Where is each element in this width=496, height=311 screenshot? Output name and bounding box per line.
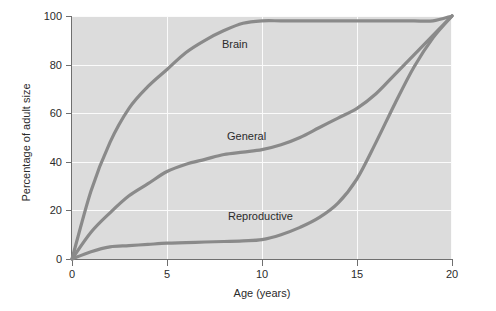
- x-tick-0: [72, 260, 73, 266]
- y-ticklabel-60: 60: [50, 108, 62, 119]
- x-ticklabel-20: 20: [437, 269, 467, 280]
- x-axis-title: Age (years): [72, 288, 452, 299]
- x-ticklabel-10: 10: [247, 269, 277, 280]
- x-ticklabel-5: 5: [152, 269, 182, 280]
- x-tick-10: [262, 260, 263, 266]
- curve-label-brain: Brain: [222, 38, 248, 50]
- x-ticklabel-15: 15: [342, 269, 372, 280]
- curve-label-general: General: [227, 130, 266, 142]
- x-tick-5: [167, 260, 168, 266]
- y-tick-80: [66, 65, 72, 66]
- gridline-x-15: [357, 16, 358, 259]
- y-tick-40: [66, 162, 72, 163]
- curve-label-reproductive: Reproductive: [228, 210, 293, 222]
- y-axis-line: [71, 16, 72, 260]
- x-tick-20: [452, 260, 453, 266]
- y-axis-title: Percentage of adult size: [21, 53, 32, 233]
- gridline-x-5: [167, 16, 168, 259]
- x-ticklabel-0: 0: [57, 269, 87, 280]
- y-ticklabel-40: 40: [50, 157, 62, 168]
- growth-curves-figure: 100 80 60 40 20 0 0 5 10 15 20 Percentag…: [0, 0, 496, 311]
- y-tick-20: [66, 210, 72, 211]
- gridline-x-20: [451, 16, 452, 259]
- y-ticklabel-20: 20: [50, 205, 62, 216]
- y-tick-100: [66, 16, 72, 17]
- y-ticklabel-80: 80: [50, 60, 62, 71]
- x-tick-15: [357, 260, 358, 266]
- y-ticklabel-100: 100: [44, 11, 62, 22]
- y-ticklabel-0: 0: [56, 254, 62, 265]
- y-tick-60: [66, 113, 72, 114]
